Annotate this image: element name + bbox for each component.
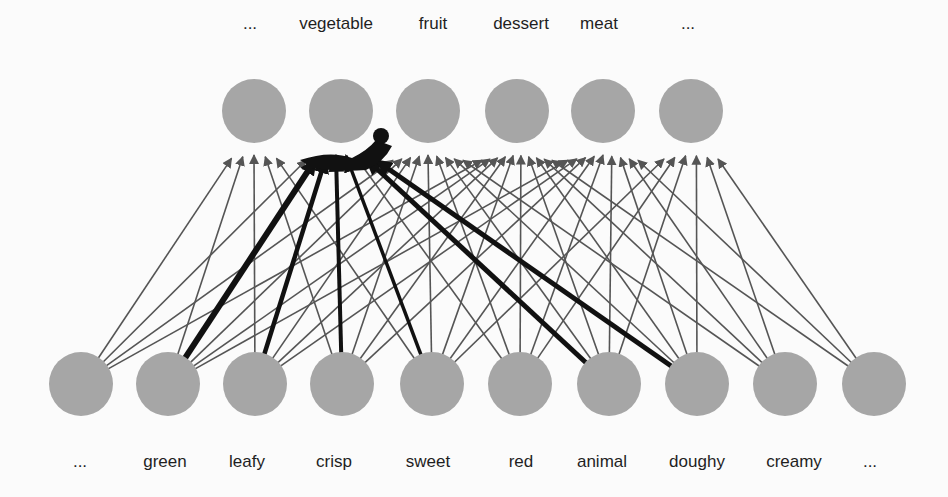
bottom-node-animal — [577, 352, 641, 416]
top-label-fruit: fruit — [419, 14, 447, 34]
edge-doughy-to-vegetable — [376, 160, 674, 368]
edge-ellipsisellipsisellipsis-to-ellipsisellipsisellipsis — [97, 158, 232, 360]
top-label-meat: meat — [580, 14, 618, 34]
bottom-label-green: green — [143, 452, 186, 472]
edges-layer — [97, 155, 859, 370]
top-label-vegetable: vegetable — [299, 14, 373, 34]
edge-doughy-to-fruit — [454, 159, 676, 365]
bottom-node-sweet — [400, 352, 464, 416]
focus-dot — [373, 128, 389, 144]
bottom-label-crisp: crisp — [316, 452, 352, 472]
edge-sweet-to-fruit — [428, 155, 432, 356]
bottom-node-ellipsis-0 — [49, 352, 113, 416]
edge-green-to-ellipsisellipsisellipsis — [177, 157, 243, 358]
top-label: ... — [681, 14, 695, 34]
edge-red-to-dessert — [520, 156, 521, 356]
bottom-node-leafy — [223, 352, 287, 416]
bottom-label: ... — [73, 452, 87, 472]
top-node-ellipsis-0 — [222, 79, 286, 143]
top-node-dessert — [485, 79, 549, 143]
edge-animal-to-vegetable — [366, 159, 588, 365]
bottom-label-creamy: creamy — [766, 452, 822, 472]
bottom-label-doughy: doughy — [669, 452, 725, 472]
top-node-ellipsis-5 — [659, 79, 723, 143]
edge-ellipsisellipsisellipsis-to-dessert — [552, 160, 851, 368]
edge-red-to-vegetable — [356, 157, 504, 361]
bottom-label-leafy: leafy — [229, 452, 265, 472]
bottom-node-green — [136, 352, 200, 416]
top-label-dessert: dessert — [493, 14, 549, 34]
top-label: ... — [243, 14, 257, 34]
bottom-node-red — [488, 352, 552, 416]
edge-animal-to-ellipsisellipsisellipsis — [618, 156, 686, 358]
edge-creamy-to-dessert — [544, 159, 764, 365]
bottom-label-sweet: sweet — [406, 452, 450, 472]
arrowhead-cluster — [300, 140, 392, 171]
bottom-node-creamy — [753, 352, 817, 416]
top-node-vegetable — [309, 79, 373, 143]
bottom-label: ... — [863, 452, 877, 472]
nodes-layer — [49, 79, 906, 416]
edge-creamy-to-fruit — [463, 160, 762, 368]
network-diagram — [0, 0, 948, 497]
bottom-node-crisp — [310, 352, 374, 416]
edge-red-to-meat — [530, 155, 603, 358]
bottom-label-red: red — [509, 452, 534, 472]
bottom-node-doughy — [665, 352, 729, 416]
bottom-node-ellipsis-9 — [842, 352, 906, 416]
top-node-fruit — [396, 79, 460, 143]
edge-ellipsisellipsisellipsis-to-meat — [638, 160, 854, 364]
bottom-label-animal: animal — [577, 452, 627, 472]
edge-ellipsisellipsisellipsis-to-ellipsisellipsisellipsis — [718, 159, 858, 361]
edge-doughy-to-dessert — [536, 158, 680, 361]
top-node-meat — [571, 79, 635, 143]
